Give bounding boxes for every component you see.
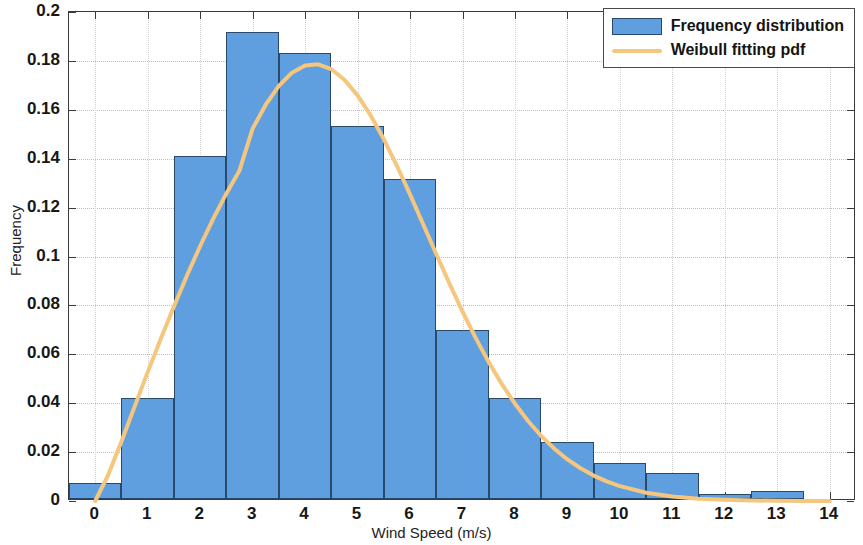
- x-tick-label: 7: [442, 504, 482, 524]
- y-axis-title-container: Frequency: [2, 0, 28, 545]
- x-tick-label: 12: [704, 504, 744, 524]
- weibull-curve-path: [95, 64, 830, 501]
- x-tick-label: 10: [599, 504, 639, 524]
- legend-patch-icon: [612, 18, 662, 35]
- x-tick-label: 14: [809, 504, 849, 524]
- legend-item-frequency-distribution[interactable]: Frequency distribution: [612, 14, 844, 38]
- y-tick-mark: [69, 501, 76, 502]
- x-tick-label: 3: [232, 504, 272, 524]
- legend-label-weibull-fitting-pdf: Weibull fitting pdf: [671, 41, 806, 59]
- y-tick-label: 0.14: [2, 148, 60, 168]
- y-tick-label: 0.08: [2, 294, 60, 314]
- x-tick-label: 1: [127, 504, 167, 524]
- y-tick-label: 0.12: [2, 197, 60, 217]
- y-tick-label: 0.02: [2, 441, 60, 461]
- y-tick-label: 0.1: [2, 246, 60, 266]
- x-tick-label: 13: [756, 504, 796, 524]
- y-tick-label: 0: [2, 490, 60, 510]
- x-tick-label: 4: [284, 504, 324, 524]
- y-tick-label: 0.06: [2, 343, 60, 363]
- figure: Frequency 00.020.040.060.080.10.120.140.…: [0, 0, 863, 545]
- weibull-curve: [69, 12, 856, 501]
- x-tick-label: 5: [337, 504, 377, 524]
- x-axis-title: Wind Speed (m/s): [0, 524, 863, 541]
- x-tick-label: 0: [74, 504, 114, 524]
- plot-area: [68, 11, 855, 500]
- x-tick-label: 8: [494, 504, 534, 524]
- x-tick-label: 9: [546, 504, 586, 524]
- legend-item-weibull-fitting-pdf[interactable]: Weibull fitting pdf: [612, 38, 844, 62]
- y-tick-label: 0.18: [2, 50, 60, 70]
- y-tick-label: 0.04: [2, 392, 60, 412]
- x-tick-label: 6: [389, 504, 429, 524]
- legend-label-frequency-distribution: Frequency distribution: [671, 17, 844, 35]
- legend[interactable]: Frequency distribution Weibull fitting p…: [603, 8, 855, 68]
- y-tick-label: 0.2: [2, 1, 60, 21]
- y-tick-label: 0.16: [2, 99, 60, 119]
- y-tick-mark: [847, 501, 854, 502]
- x-tick-label: 2: [179, 504, 219, 524]
- x-tick-label: 11: [651, 504, 691, 524]
- legend-line-icon: [612, 42, 662, 59]
